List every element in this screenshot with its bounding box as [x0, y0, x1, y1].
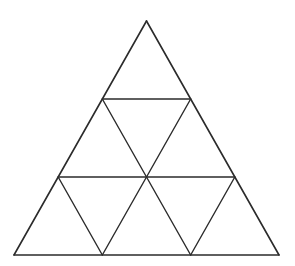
figure-background: [0, 0, 295, 266]
triangle-figure: Equilateral triangle subdivided into 16 …: [0, 0, 295, 266]
